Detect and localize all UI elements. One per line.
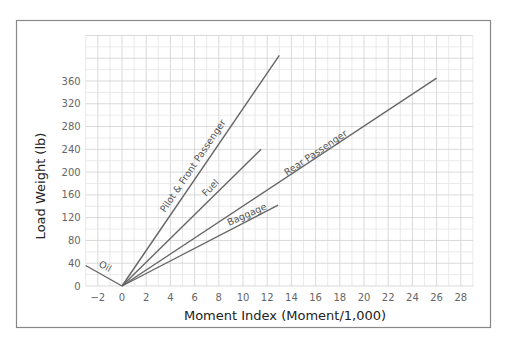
y-axis-title: Load Weight (lb) <box>33 133 48 240</box>
x-axis-title: Moment Index (Moment/1,000) <box>184 308 386 323</box>
y-tick-label: 320 <box>62 98 81 109</box>
x-tick-label: 10 <box>237 292 250 303</box>
y-tick-label: 200 <box>62 167 81 178</box>
loading-graph: −20246810121416182022242628 040801201602… <box>0 0 506 349</box>
x-tick-label: 6 <box>191 292 197 303</box>
y-tick-label: 360 <box>62 76 81 87</box>
x-tick-label: 4 <box>167 292 173 303</box>
x-tick-label: 16 <box>309 292 322 303</box>
x-tick-label: 22 <box>382 292 395 303</box>
x-tick-label: 18 <box>333 292 346 303</box>
x-tick-label: 8 <box>216 292 222 303</box>
x-tick-label: 0 <box>119 292 125 303</box>
x-tick-label: 26 <box>430 292 443 303</box>
y-tick-label: 40 <box>68 258 81 269</box>
chart-frame <box>17 21 491 328</box>
x-tick-label: −2 <box>90 292 105 303</box>
x-tick-label: 12 <box>261 292 274 303</box>
y-tick-label: 80 <box>68 235 81 246</box>
x-tick-label: 20 <box>358 292 371 303</box>
x-tick-label: 2 <box>143 292 149 303</box>
y-tick-label: 240 <box>62 144 81 155</box>
y-tick-label: 0 <box>74 281 80 292</box>
y-tick-label: 120 <box>62 212 81 223</box>
x-tick-label: 28 <box>454 292 467 303</box>
y-tick-label: 280 <box>62 121 81 132</box>
x-tick-label: 14 <box>285 292 298 303</box>
y-tick-label: 160 <box>62 189 81 200</box>
x-tick-label: 24 <box>406 292 419 303</box>
